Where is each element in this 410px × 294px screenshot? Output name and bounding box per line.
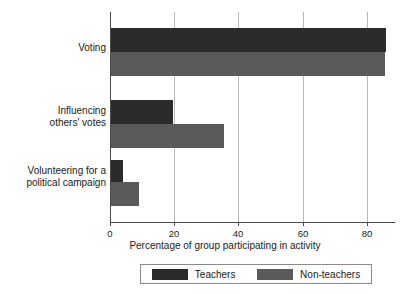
x-axis-line: [110, 222, 395, 223]
plot-area: [110, 12, 367, 222]
chart-legend: Teachers Non-teachers: [140, 264, 372, 284]
bar-voting-non-teachers: [110, 52, 385, 76]
legend-swatch-non-teachers: [257, 269, 293, 280]
bar-volunteering-non-teachers: [110, 182, 139, 206]
bar-influencing-non-teachers: [110, 124, 224, 148]
x-axis-title: Percentage of group participating in act…: [0, 240, 410, 252]
x-tick-mark-40: [238, 222, 239, 226]
x-tick-mark-60: [303, 222, 304, 226]
x-tick-label-20: 20: [159, 228, 189, 239]
x-tick-label-60: 60: [288, 228, 318, 239]
legend-swatch-teachers: [152, 269, 188, 280]
bar-chart: 0 20 40 60 80 Voting Influencing others'…: [0, 0, 410, 294]
legend-entry-teachers: Teachers: [152, 269, 236, 280]
category-label-influencing: Influencing others' votes: [50, 105, 106, 129]
legend-label-teachers: Teachers: [195, 269, 236, 280]
x-tick-mark-0: [110, 222, 111, 226]
bar-voting-teachers: [110, 28, 386, 52]
y-axis-line: [110, 12, 111, 223]
x-tick-label-0: 0: [95, 228, 125, 239]
x-tick-label-80: 80: [352, 228, 382, 239]
x-tick-mark-80: [367, 222, 368, 226]
bar-influencing-teachers: [110, 100, 173, 124]
legend-label-non-teachers: Non-teachers: [300, 269, 360, 280]
bar-volunteering-teachers: [110, 160, 123, 182]
x-tick-label-40: 40: [223, 228, 253, 239]
category-label-voting: Voting: [78, 42, 106, 54]
x-tick-mark-20: [174, 222, 175, 226]
category-label-volunteering: Volunteering for a political campaign: [27, 165, 107, 189]
legend-entry-non-teachers: Non-teachers: [257, 269, 360, 280]
